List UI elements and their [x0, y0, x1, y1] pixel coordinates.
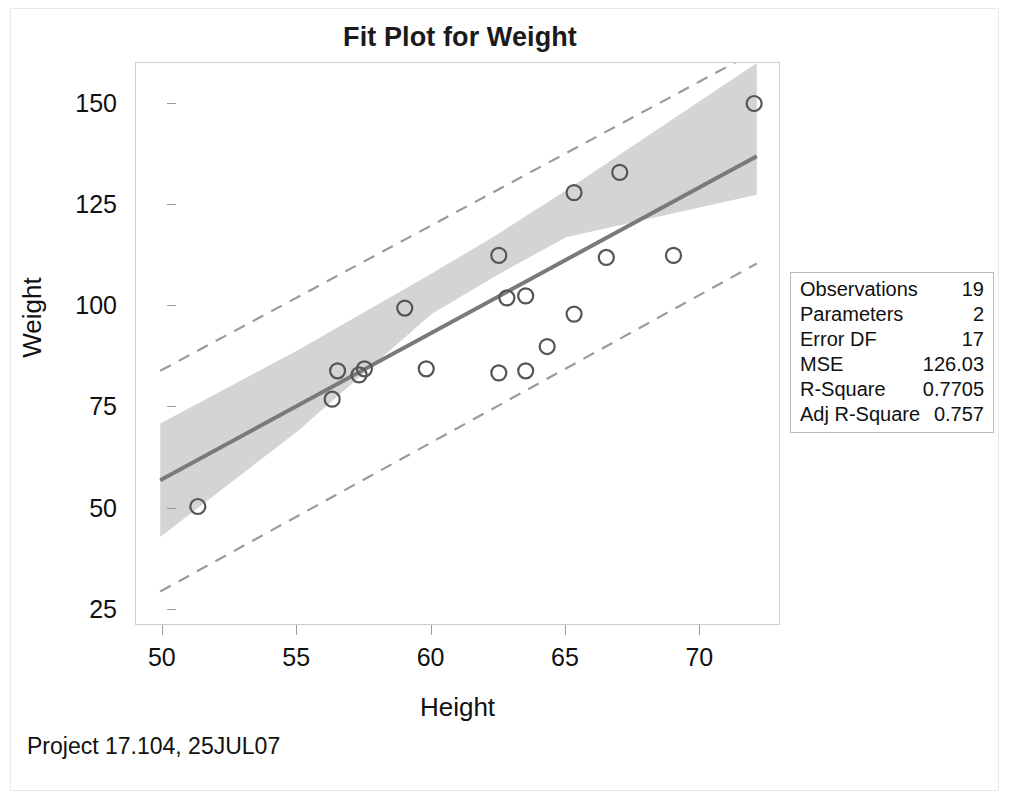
data-point[interactable] — [518, 363, 533, 378]
y-tick-label: 100 — [47, 291, 117, 320]
x-tick-label: 55 — [256, 643, 336, 672]
stats-value: 2 — [973, 302, 984, 327]
stats-label: Error DF — [800, 327, 877, 352]
stats-label: R-Square — [800, 377, 886, 402]
stats-row: Observations19 — [791, 277, 993, 302]
plot-canvas — [136, 63, 780, 625]
y-tick-mark — [167, 204, 176, 205]
fit-plot-page: Fit Plot for Weight 255075100125150 5055… — [0, 0, 1009, 799]
confidence-band — [160, 63, 757, 537]
data-point[interactable] — [491, 365, 506, 380]
data-point[interactable] — [567, 307, 582, 322]
stats-row: Error DF17 — [791, 327, 993, 352]
y-axis-ticks: 255075100125150 — [42, 62, 117, 625]
x-tick-label: 60 — [391, 643, 471, 672]
stats-value: 17 — [962, 327, 984, 352]
prediction-limit-upper — [160, 63, 757, 371]
stats-label: Parameters — [800, 302, 903, 327]
stats-row: MSE126.03 — [791, 352, 993, 377]
x-tick-mark — [699, 625, 700, 635]
x-tick-label: 70 — [659, 643, 739, 672]
regression-fit-line — [160, 156, 757, 480]
x-tick-mark — [296, 625, 297, 635]
x-tick-mark — [431, 625, 432, 635]
stats-row: Adj R-Square0.757 — [791, 402, 993, 427]
stats-value: 0.757 — [934, 402, 984, 427]
stats-label: MSE — [800, 352, 843, 377]
data-point[interactable] — [599, 250, 614, 265]
y-tick-mark — [167, 305, 176, 306]
stats-value: 19 — [962, 277, 984, 302]
y-tick-mark — [167, 609, 176, 610]
plot-area — [135, 62, 780, 625]
stats-row: Parameters2 — [791, 302, 993, 327]
y-axis-label: Weight — [17, 238, 48, 398]
y-tick-label: 150 — [47, 88, 117, 117]
x-tick-label: 65 — [525, 643, 605, 672]
y-tick-mark — [167, 406, 176, 407]
y-tick-mark — [167, 508, 176, 509]
x-tick-label: 50 — [122, 643, 202, 672]
data-point[interactable] — [666, 248, 681, 263]
x-tick-mark — [162, 625, 163, 635]
x-axis-ticks: 5055606570 — [135, 625, 780, 685]
y-tick-label: 75 — [47, 392, 117, 421]
data-point[interactable] — [540, 339, 555, 354]
x-axis-label: Height — [135, 692, 780, 723]
footer-note: Project 17.104, 25JUL07 — [27, 733, 280, 760]
page-title: Fit Plot for Weight — [0, 22, 920, 53]
y-tick-label: 25 — [47, 594, 117, 623]
stats-label: Observations — [800, 277, 918, 302]
y-tick-mark — [167, 103, 176, 104]
y-tick-label: 125 — [47, 189, 117, 218]
stats-value: 126.03 — [923, 352, 984, 377]
stats-row: R-Square0.7705 — [791, 377, 993, 402]
stats-label: Adj R-Square — [800, 402, 920, 427]
fit-statistics-box: Observations19Parameters2Error DF17MSE12… — [790, 272, 994, 433]
data-point[interactable] — [419, 361, 434, 376]
y-tick-label: 50 — [47, 493, 117, 522]
data-point[interactable] — [518, 288, 533, 303]
x-tick-mark — [565, 625, 566, 635]
stats-value: 0.7705 — [923, 377, 984, 402]
